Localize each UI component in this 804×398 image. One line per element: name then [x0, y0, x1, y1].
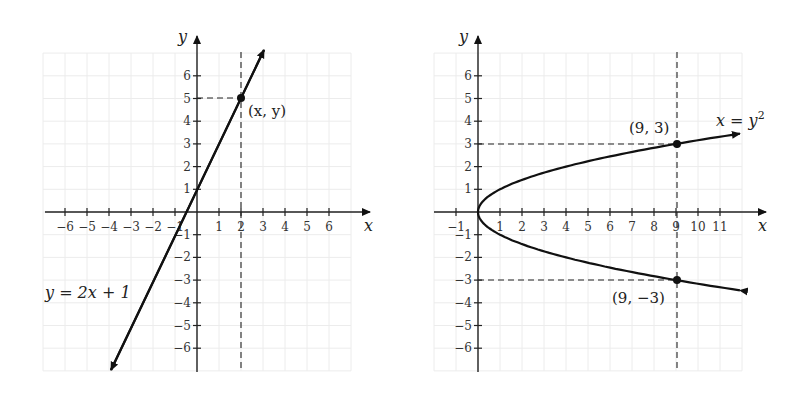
right-point-top-label: (9, 3) [629, 119, 669, 137]
y-tick-label: −6 [454, 341, 472, 355]
right-point-bottom-label: (9, −3) [612, 289, 665, 307]
y-tick-label: −5 [173, 319, 191, 333]
x-tick-label: 9 [672, 220, 680, 234]
x-tick-label: −4 [100, 220, 118, 234]
right-y-label: y [458, 27, 469, 46]
y-tick-label: 5 [464, 92, 472, 106]
y-tick-label: −6 [173, 341, 191, 355]
y-tick-label: 3 [464, 137, 472, 151]
x-tick-label: −5 [78, 220, 96, 234]
right-x-label: x [758, 216, 767, 235]
x-tick-label: 3 [540, 220, 548, 234]
x-tick-label: 4 [562, 220, 570, 234]
right-point-top [673, 140, 681, 148]
y-tick-label: 3 [183, 137, 191, 151]
figure: −6−5−4−3−2−1123456123456−1−2−3−4−5−6 (x,… [0, 0, 804, 398]
y-tick-label: 2 [464, 160, 472, 174]
right-graph: −11234567891011123456−1−2−3−4−5−6 (9, 3)… [434, 27, 767, 372]
y-tick-label: 1 [464, 182, 472, 196]
y-tick-label: −3 [454, 273, 472, 287]
left-point-label: (x, y) [248, 102, 286, 120]
x-tick-label: 2 [518, 220, 526, 234]
x-tick-label: 3 [259, 220, 267, 234]
x-tick-label: 11 [712, 220, 727, 234]
x-tick-label: 1 [215, 220, 223, 234]
y-tick-label: −2 [454, 250, 472, 264]
x-tick-label: −2 [144, 220, 162, 234]
y-tick-label: 6 [183, 69, 191, 83]
left-point [237, 94, 245, 102]
x-tick-label: −3 [122, 220, 140, 234]
y-tick-label: 2 [183, 160, 191, 174]
y-tick-label: −3 [173, 273, 191, 287]
right-point-bottom [673, 276, 681, 284]
y-tick-label: 6 [464, 69, 472, 83]
left-y-label: y [177, 27, 188, 46]
y-tick-label: −1 [454, 228, 472, 242]
y-tick-label: 5 [183, 92, 191, 106]
x-tick-label: 6 [606, 220, 614, 234]
x-tick-label: 8 [650, 220, 658, 234]
right-equation: x = y2 [716, 109, 765, 130]
left-x-label: x [364, 216, 373, 235]
y-tick-label: −5 [454, 319, 472, 333]
y-tick-label: −4 [173, 296, 191, 310]
left-equation: y = 2x + 1 [44, 283, 131, 302]
x-tick-label: 6 [325, 220, 333, 234]
x-tick-label: 7 [628, 220, 636, 234]
y-tick-label: −2 [173, 250, 191, 264]
y-tick-label: 1 [183, 182, 191, 196]
x-tick-label: 5 [584, 220, 592, 234]
x-tick-label: 10 [690, 220, 705, 234]
y-tick-label: −4 [454, 296, 472, 310]
x-tick-label: 4 [281, 220, 289, 234]
x-tick-label: 5 [303, 220, 311, 234]
left-graph: −6−5−4−3−2−1123456123456−1−2−3−4−5−6 (x,… [43, 27, 373, 372]
y-tick-label: 4 [183, 114, 191, 128]
x-tick-label: −6 [56, 220, 74, 234]
y-tick-label: 4 [464, 114, 472, 128]
x-tick-label: 1 [496, 220, 504, 234]
